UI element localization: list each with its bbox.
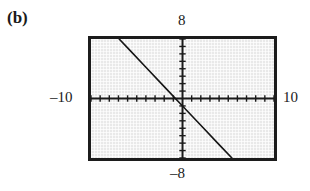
x-min-label: –10	[50, 90, 73, 105]
figure-part-label: (b)	[7, 9, 28, 26]
y-min-label: –8	[170, 166, 185, 181]
y-max-label: 8	[178, 13, 186, 28]
x-max-label: 10	[283, 90, 298, 105]
plot-area	[91, 39, 274, 158]
calculator-screen-frame	[88, 36, 277, 161]
